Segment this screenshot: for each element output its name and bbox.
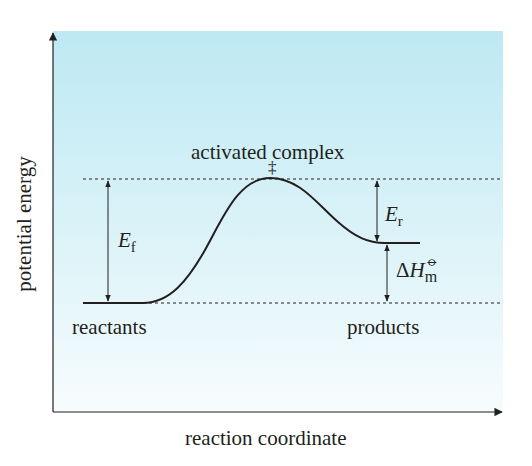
standard-state-icon: ⦵ [426,254,439,269]
plot-background [53,31,503,412]
reactants-label: reactants [72,317,147,338]
enthalpy-change-label: ΔH⦵m [396,260,439,281]
delta-symbol: Δ [396,258,410,282]
energy-profile-diagram: activated complex ‡ Ef Er ΔH⦵m reactants… [0,0,532,466]
forward-activation-subscript: f [131,239,136,255]
y-axis-label: potential energy [12,156,37,292]
reverse-activation-energy-label: Er [385,204,403,225]
double-dagger-symbol: ‡ [268,159,277,176]
reverse-activation-symbol: E [385,202,398,226]
forward-activation-symbol: E [118,228,131,252]
enthalpy-symbol: H [410,258,425,282]
products-label: products [347,317,419,338]
diagram-canvas [0,0,532,466]
forward-activation-energy-label: Ef [118,230,136,251]
molar-subscript: m [425,269,437,285]
enthalpy-sub-superscript: ⦵m [425,260,439,280]
reverse-activation-subscript: r [398,213,403,229]
x-axis-label: reaction coordinate [185,428,347,449]
